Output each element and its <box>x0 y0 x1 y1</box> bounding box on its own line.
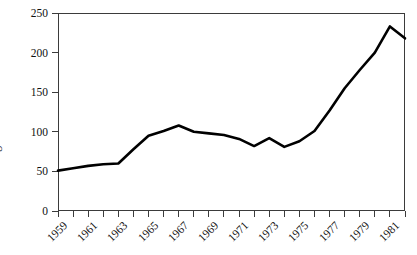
y-tick-label: 200 <box>2 47 48 59</box>
x-tick-label: 1973 <box>252 219 280 247</box>
x-tick-label: 1965 <box>132 219 160 247</box>
x-tick-mark <box>223 211 224 217</box>
x-tick-mark <box>163 211 164 217</box>
x-tick-mark <box>73 211 74 217</box>
x-tick-mark <box>103 211 104 217</box>
x-tick-mark <box>389 211 390 217</box>
x-tick-mark <box>148 211 149 217</box>
series-polyline <box>58 26 405 170</box>
x-tick-mark <box>359 211 360 217</box>
x-tick-mark <box>254 211 255 217</box>
x-tick-label: 1963 <box>102 219 130 247</box>
x-tick-label: 1969 <box>192 219 220 247</box>
x-tick-label: 1975 <box>283 219 311 247</box>
x-tick-mark <box>133 211 134 217</box>
x-tick-mark <box>329 211 330 217</box>
y-axis-title-text: Rig count <box>0 116 1 163</box>
x-tick-mark <box>239 211 240 217</box>
y-tick-label: 50 <box>2 165 48 177</box>
x-tick-mark <box>374 211 375 217</box>
rig-count-line-chart: Rig count 250200150100500 19591961196319… <box>0 0 417 255</box>
x-tick-label: 1967 <box>162 219 190 247</box>
y-tick-label: 0 <box>2 205 48 217</box>
x-tick-label: 1971 <box>222 219 250 247</box>
x-tick-mark <box>284 211 285 217</box>
x-tick-mark <box>193 211 194 217</box>
series-line-rig-count <box>58 13 405 211</box>
y-tick-label: 250 <box>2 7 48 19</box>
x-tick-mark <box>405 211 406 217</box>
x-tick-mark <box>208 211 209 217</box>
x-tick-label: 1961 <box>71 219 99 247</box>
x-tick-label: 1977 <box>313 219 341 247</box>
x-tick-mark <box>269 211 270 217</box>
x-tick-mark <box>344 211 345 217</box>
y-tick-label: 100 <box>2 126 48 138</box>
x-tick-label: 1979 <box>343 219 371 247</box>
x-tick-label: 1981 <box>373 219 401 247</box>
x-tick-mark <box>178 211 179 217</box>
x-tick-mark <box>88 211 89 217</box>
x-tick-mark <box>299 211 300 217</box>
x-tick-label: 1959 <box>41 219 69 247</box>
y-tick-label: 150 <box>2 86 48 98</box>
x-tick-mark <box>314 211 315 217</box>
x-tick-mark <box>58 211 59 217</box>
x-tick-mark <box>118 211 119 217</box>
